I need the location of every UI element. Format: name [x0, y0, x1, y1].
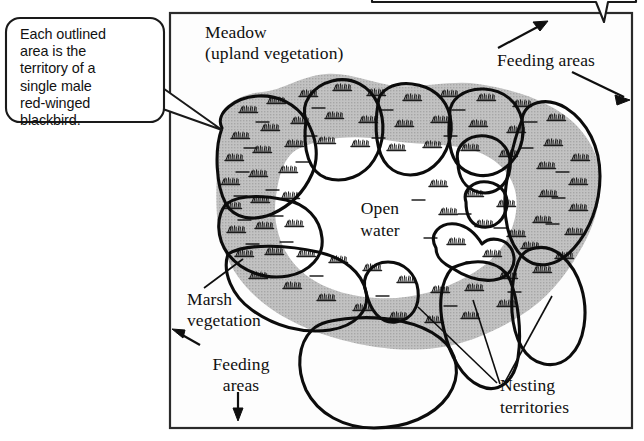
callout-territory-text: Each outlined area is the territory of a…	[20, 26, 160, 129]
label-open-water: Open water	[337, 197, 423, 241]
label-feeding-areas-top-right: Feeding areas	[497, 50, 595, 71]
label-nesting-territories: Nesting territories	[500, 374, 569, 418]
label-feeding-areas-bottom-left: Feeding areas	[204, 354, 278, 396]
label-meadow: Meadow (upland vegetation)	[205, 22, 343, 64]
label-marsh-vegetation: Marsh vegetation	[187, 289, 261, 331]
